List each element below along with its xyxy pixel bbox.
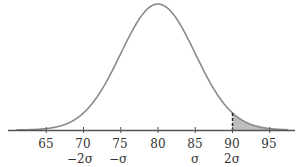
sigma-label-minus-1: −σ [109,152,127,166]
tick-label-90: 90 [224,137,239,151]
tick-label-80: 80 [150,137,165,151]
sigma-label-plus-2: 2σ [224,152,240,166]
tick-label-75: 75 [112,137,127,151]
normal-curve [16,4,288,130]
sigma-label-minus-2: −2σ [67,152,93,166]
tick-label-65: 65 [38,137,53,151]
tick-label-85: 85 [187,137,202,151]
sigma-label-plus-1: σ [191,152,199,166]
normal-distribution-diagram: 65 70 75 80 85 90 95 −2σ −σ σ 2σ [0,0,297,167]
tick-label-95: 95 [261,137,276,151]
tick-label-70: 70 [75,137,90,151]
